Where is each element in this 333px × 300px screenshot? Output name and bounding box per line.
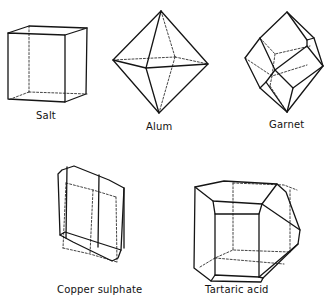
label-salt: Salt [36,110,56,121]
label-alum: Alum [146,121,173,132]
crystal-diagram: Salt Alum Garnet Copper sulphate Tartari… [0,0,333,300]
tartaric-acid-crystal-drawing [194,181,300,282]
label-copper-sulphate: Copper sulphate [57,284,142,295]
label-tartaric-acid: Tartaric acid [205,284,269,295]
salt-crystal-drawing [8,26,87,102]
copper-sulphate-crystal-drawing [58,166,124,262]
alum-crystal-drawing [113,11,208,113]
garnet-crystal-drawing [245,12,323,112]
label-garnet: Garnet [269,119,304,130]
